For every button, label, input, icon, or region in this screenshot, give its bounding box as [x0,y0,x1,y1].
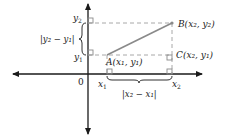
vertical-distance-label: |y₂ − y₁| [40,34,75,45]
point-c-label: C(x₂, y₁) [176,50,213,60]
point-b-dot [170,21,173,24]
horizontal-brace [107,76,172,83]
x2-label: x2 [172,79,181,90]
origin-label: 0 [78,77,84,87]
point-b-label: B(x₂, y₂) [177,19,215,29]
x1-label: x1 [98,79,107,90]
vertical-brace [79,23,86,55]
y2-label: y2 [72,13,82,24]
point-a-label: A(x₁, y₁) [105,57,143,67]
horizontal-distance-label: |x₂ − x₁| [122,89,157,100]
y1-label: y1 [73,52,83,63]
distance-diagram: 0 y2 y1 |y₂ − y₁| x1 x2 |x₂ − x₁| A(x₁, … [0,0,226,137]
segment-ab [107,23,172,55]
